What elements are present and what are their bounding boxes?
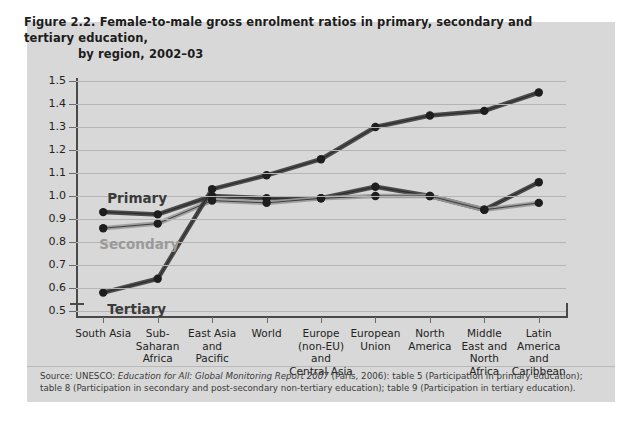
y-axis-tick: [69, 288, 76, 289]
data-point-marker: [154, 275, 162, 283]
y-axis-tick-label: 1.4: [36, 98, 66, 110]
data-point-marker: [535, 178, 543, 186]
gridline: [76, 219, 566, 220]
y-axis-tick-label: 1.1: [36, 167, 66, 179]
y-axis-tick: [69, 81, 76, 82]
data-point-marker: [535, 88, 543, 96]
source-separator: [27, 366, 615, 367]
figure-title: Figure 2.2. Female-to-male gross enrolme…: [24, 14, 569, 62]
x-axis-tick: [212, 317, 213, 323]
x-axis-tick: [375, 317, 376, 323]
data-point-marker: [208, 196, 216, 204]
y-axis-tick: [69, 150, 76, 151]
y-axis-tick: [69, 219, 76, 220]
x-axis-tick: [158, 317, 159, 323]
series-label-primary: Primary: [107, 190, 167, 206]
gridline: [76, 150, 566, 151]
gridline: [76, 127, 566, 128]
data-point-marker: [426, 111, 434, 119]
x-axis-tick: [267, 317, 268, 323]
data-point-marker: [480, 206, 488, 214]
data-point-marker: [262, 199, 270, 207]
data-point-marker: [371, 183, 379, 191]
series-line-tertiary: [103, 93, 539, 293]
data-point-marker: [99, 224, 107, 232]
series-label-tertiary: Tertiary: [107, 301, 166, 317]
gridline: [76, 173, 566, 174]
source-prefix: Source: UNESCO:: [40, 371, 118, 381]
data-point-marker: [480, 107, 488, 115]
y-axis-tick-label: 1.2: [36, 144, 66, 156]
y-axis-tick: [69, 127, 76, 128]
series-label-secondary: Secondary: [99, 236, 179, 252]
y-axis-tick: [69, 196, 76, 197]
gridline: [76, 288, 566, 289]
y-axis-tick-label: 1.3: [36, 121, 66, 133]
y-axis-tick: [69, 242, 76, 243]
y-axis-tick: [69, 104, 76, 105]
x-axis-tick: [484, 317, 485, 323]
data-point-marker: [99, 288, 107, 296]
figure-title-line-1: Figure 2.2. Female-to-male gross enrolme…: [24, 14, 569, 46]
y-axis-tick-label: 0.5: [36, 305, 66, 317]
x-axis-right-cap: [566, 303, 568, 318]
x-axis-tick: [539, 317, 540, 323]
y-axis-tick-label: 0.9: [36, 213, 66, 225]
y-axis-tick: [69, 265, 76, 266]
data-point-marker: [99, 208, 107, 216]
data-point-marker: [208, 185, 216, 193]
y-axis-tick-label: 0.8: [36, 236, 66, 248]
y-axis-tick: [69, 173, 76, 174]
x-axis-tick: [321, 317, 322, 323]
x-axis-tick: [430, 317, 431, 323]
figure-screenshot: Figure 2.2. Female-to-male gross enrolme…: [0, 0, 642, 424]
data-point-marker: [317, 155, 325, 163]
y-axis-tick-label: 1.0: [36, 190, 66, 202]
data-point-marker: [154, 219, 162, 227]
y-axis-tick-label: 1.5: [36, 75, 66, 87]
data-point-marker: [535, 199, 543, 207]
gridline: [76, 265, 566, 266]
x-axis-tick: [103, 317, 104, 323]
figure-title-line-2: by region, 2002–03: [24, 46, 569, 62]
gridline: [76, 81, 566, 82]
gridline: [76, 104, 566, 105]
x-axis-tick-label: LatinAmericaandCaribbean: [494, 327, 584, 377]
source-note: Source: UNESCO: Education for All: Globa…: [40, 371, 605, 394]
y-axis-tick-label: 0.6: [36, 282, 66, 294]
source-title: Education for All: Global Monitoring Rep…: [118, 371, 329, 381]
y-axis-tick: [69, 311, 76, 312]
y-axis-tick-label: 0.7: [36, 259, 66, 271]
data-point-marker: [154, 210, 162, 218]
